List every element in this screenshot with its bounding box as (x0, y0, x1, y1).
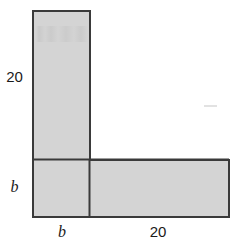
l-shape-outline (33, 11, 229, 217)
dimension-label-height-bottom: b (0, 179, 29, 195)
figure-canvas: 20 b b 20 (0, 0, 245, 250)
dimension-label-height-top: 20 (0, 69, 29, 84)
dimension-label-width-right: 20 (138, 224, 178, 239)
dimension-label-width-left: b (47, 224, 77, 240)
l-shape-figure (0, 0, 245, 250)
